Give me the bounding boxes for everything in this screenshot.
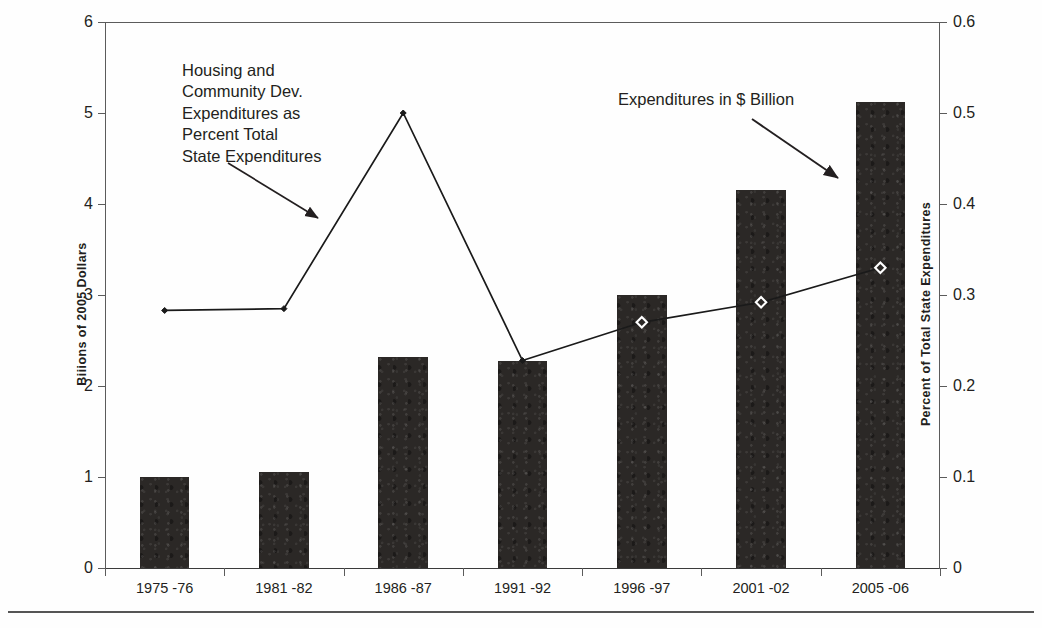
y-axis-left-title: Biiions of 2005 Dollars (75, 242, 89, 385)
x-axis-tick (582, 568, 583, 576)
x-axis-tick-label: 1975 -76 (136, 580, 193, 596)
line-series-marker (756, 297, 766, 307)
x-axis-tick (463, 568, 464, 576)
x-axis-tick-label: 1991 -92 (494, 580, 551, 596)
x-axis-tick (821, 568, 822, 576)
y-axis-right-tick (939, 386, 947, 387)
x-axis-tick (224, 568, 225, 576)
y-axis-left-tick-label: 5 (84, 104, 93, 122)
y-axis-left-tick-label: 0 (84, 559, 93, 577)
y-axis-right-tick-label: 0.5 (953, 104, 975, 122)
x-axis-tick-label: 2001 -02 (732, 580, 789, 596)
y-axis-right-tick (939, 22, 947, 23)
y-axis-right-tick-label: 0.6 (953, 13, 975, 31)
y-axis-left-tick-label: 6 (84, 13, 93, 31)
y-axis-right-tick-label: 0.2 (953, 377, 975, 395)
y-axis-right-tick (939, 295, 947, 296)
x-axis-tick (344, 568, 345, 576)
line-series-marker (875, 263, 885, 273)
chart-figure: Biiions of 2005 Dollars Percent of Total… (0, 0, 1042, 628)
x-axis-tick-label: 2005 -06 (852, 580, 909, 596)
annotation-dollar-series: Expenditures in $ Billion (618, 89, 794, 110)
y-axis-left-tick-label: 2 (84, 377, 93, 395)
y-axis-left-tick-label: 3 (84, 286, 93, 304)
y-axis-right-tick (939, 477, 947, 478)
x-axis-tick (105, 568, 106, 576)
line-series-marker (520, 358, 526, 364)
x-axis-tick-label: 1986 -87 (375, 580, 432, 596)
footer-rule (8, 611, 1034, 613)
line-series-marker (162, 307, 168, 313)
x-axis-tick-label: 1981 -82 (255, 580, 312, 596)
y-axis-right-tick-label: 0.1 (953, 468, 975, 486)
x-axis-tick-label: 1996 -97 (613, 580, 670, 596)
y-axis-right-tick (939, 113, 947, 114)
y-axis-right-tick (939, 204, 947, 205)
y-axis-left-tick-label: 4 (84, 195, 93, 213)
y-axis-right-tick-label: 0.4 (953, 195, 975, 213)
x-axis-tick (701, 568, 702, 576)
line-series-marker (637, 317, 647, 327)
y-axis-left-tick-label: 1 (84, 468, 93, 486)
x-axis-tick (940, 568, 941, 576)
annotation-percent-series: Housing and Community Dev. Expenditures … (182, 60, 321, 167)
y-axis-right-tick-label: 0.3 (953, 286, 975, 304)
y-axis-right-tick-label: 0 (953, 559, 962, 577)
